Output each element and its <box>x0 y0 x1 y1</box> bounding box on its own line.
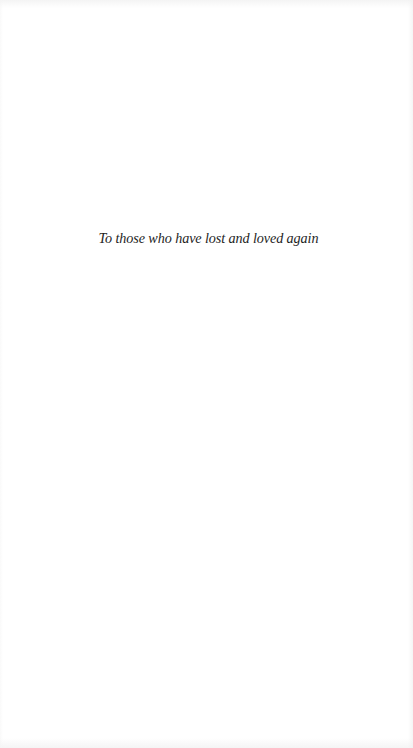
scan-edge-right <box>408 0 413 748</box>
scan-edge-left <box>0 0 3 748</box>
scan-edge-top <box>0 0 413 8</box>
book-page: To those who have lost and loved again <box>0 0 413 748</box>
scan-edge-bottom <box>0 738 413 748</box>
dedication-text: To those who have lost and loved again <box>0 229 413 247</box>
